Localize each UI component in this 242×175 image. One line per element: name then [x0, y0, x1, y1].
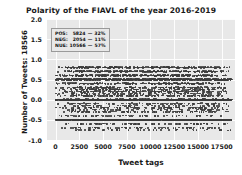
scatter-point	[63, 111, 65, 113]
scatter-point	[85, 74, 87, 76]
scatter-point	[205, 82, 207, 84]
scatter-point	[157, 115, 159, 117]
scatter-point	[80, 123, 82, 125]
scatter-point	[176, 82, 178, 84]
scatter-point	[97, 115, 99, 117]
scatter-point	[211, 127, 213, 129]
scatter-point	[78, 107, 80, 109]
scatter-point	[112, 91, 114, 93]
x-axis-ticks: 025005000750010000125001500017500	[47, 143, 235, 153]
scatter-point	[110, 115, 112, 117]
scatter-point	[109, 95, 111, 97]
scatter-point	[61, 115, 63, 117]
scatter-point	[85, 115, 87, 117]
scatter-point	[145, 74, 147, 76]
scatter-point	[199, 93, 201, 95]
scatter-point	[129, 66, 131, 68]
scatter-point	[228, 70, 230, 72]
scatter-point	[129, 74, 131, 76]
scatter-point	[160, 129, 162, 131]
scatter-point	[81, 75, 83, 77]
scatter-point	[196, 115, 198, 117]
scatter-point	[78, 94, 80, 96]
scatter-point	[145, 66, 147, 68]
scatter-point	[120, 91, 122, 93]
scatter-point	[208, 75, 210, 77]
scatter-point	[154, 127, 156, 129]
scatter-point	[146, 115, 148, 117]
scatter-point	[74, 111, 76, 113]
scatter-point	[129, 127, 131, 129]
scatter-point	[78, 103, 80, 105]
scatter-point	[197, 82, 199, 84]
scatter-point	[156, 66, 158, 68]
scatter-point	[156, 129, 158, 131]
scatter-point	[134, 111, 136, 113]
scatter-point	[203, 91, 205, 93]
scatter-point	[162, 66, 164, 68]
scatter-point	[168, 123, 170, 125]
scatter-point	[87, 103, 89, 105]
gridline-horizontal	[47, 59, 235, 60]
scatter-point	[65, 123, 67, 125]
scatter-point	[142, 127, 144, 129]
scatter-point	[102, 115, 104, 117]
scatter-point	[130, 111, 132, 113]
scatter-point	[184, 103, 186, 105]
scatter-point	[108, 129, 110, 131]
scatter-point	[168, 105, 170, 107]
scatter-point	[176, 115, 178, 117]
scatter-point	[172, 115, 174, 117]
scatter-point	[220, 115, 222, 117]
scatter-point	[158, 123, 160, 125]
scatter-point	[127, 67, 129, 69]
scatter-point	[173, 87, 175, 89]
scatter-point	[208, 91, 210, 93]
scatter-point	[207, 109, 209, 111]
y-tick-label: -0.5	[1, 116, 45, 123]
scatter-point	[114, 95, 116, 97]
scatter-point	[119, 115, 121, 117]
scatter-point	[64, 95, 66, 97]
scatter-point	[212, 95, 214, 97]
scatter-point	[116, 129, 118, 131]
scatter-point	[115, 92, 117, 94]
scatter-point	[151, 90, 153, 92]
scatter-point	[76, 95, 78, 97]
scatter-point	[215, 83, 217, 85]
scatter-point	[196, 71, 198, 73]
scatter-point	[159, 67, 161, 69]
scatter-point	[119, 127, 121, 129]
scatter-point	[202, 127, 204, 129]
scatter-point	[172, 95, 174, 97]
scatter-point	[92, 127, 94, 129]
scatter-point	[96, 86, 98, 88]
scatter-point	[80, 83, 82, 85]
scatter-point	[110, 83, 112, 85]
scatter-point	[83, 102, 85, 104]
scatter-point	[231, 79, 233, 81]
scatter-point	[75, 127, 77, 129]
scatter-point	[149, 103, 151, 105]
scatter-point	[227, 123, 229, 125]
scatter-point	[168, 111, 170, 113]
y-tick-label: 1.0	[1, 56, 45, 63]
scatter-point	[187, 75, 189, 77]
scatter-point	[203, 111, 205, 113]
scatter-point	[117, 105, 119, 107]
scatter-point	[137, 67, 139, 69]
y-tick-label: 1.5	[1, 36, 45, 43]
chart-figure: Polarity of the FIAVL of the year 2016-2…	[0, 0, 242, 175]
scatter-point	[92, 67, 94, 69]
scatter-point	[58, 67, 60, 69]
scatter-point	[114, 89, 116, 91]
scatter-point	[153, 87, 155, 89]
scatter-point	[188, 109, 190, 111]
scatter-point	[175, 127, 177, 129]
scatter-point	[87, 95, 89, 97]
scatter-point	[125, 90, 127, 92]
scatter-point	[62, 107, 64, 109]
scatter-point	[212, 91, 214, 93]
scatter-point	[207, 123, 209, 125]
scatter-point	[80, 129, 82, 131]
